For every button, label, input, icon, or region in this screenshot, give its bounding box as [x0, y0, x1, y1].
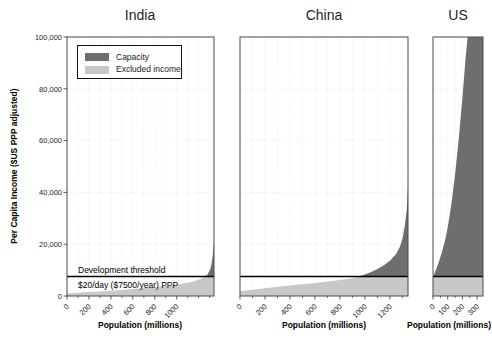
- threshold-sublabel: $20/day ($7500/year) PPP: [78, 281, 178, 291]
- panel-india: 02004006008001000: [62, 37, 214, 320]
- svg-text:0: 0: [428, 302, 437, 311]
- svg-text:80,000: 80,000: [39, 85, 62, 94]
- svg-text:800: 800: [144, 302, 159, 317]
- panel-title-us: US: [448, 7, 467, 23]
- threshold-label: Development threshold: [78, 266, 165, 276]
- svg-text:400: 400: [279, 302, 294, 317]
- svg-text:0: 0: [62, 302, 71, 311]
- svg-text:20,000: 20,000: [39, 240, 62, 249]
- excluded-income-area: [433, 277, 483, 296]
- svg-text:200: 200: [451, 302, 466, 317]
- svg-text:0: 0: [235, 302, 244, 311]
- income-distribution-figure: 0200400600800100002004006008001000120001…: [0, 0, 492, 351]
- svg-text:200: 200: [78, 302, 93, 317]
- svg-text:600: 600: [304, 302, 319, 317]
- y-axis-ticks: 020,00040,00060,00080,000100,000: [35, 33, 67, 301]
- svg-text:400: 400: [100, 302, 115, 317]
- capacity-area: [240, 186, 408, 277]
- svg-text:600: 600: [122, 302, 137, 317]
- x-axis-label-india: Population (millions): [98, 320, 182, 330]
- svg-text:1000: 1000: [351, 302, 369, 320]
- svg-text:40,000: 40,000: [39, 188, 62, 197]
- svg-text:100: 100: [436, 302, 451, 317]
- svg-text:100,000: 100,000: [35, 33, 62, 42]
- svg-text:60,000: 60,000: [39, 136, 62, 145]
- plot-border: [240, 37, 408, 296]
- chart-canvas: 0200400600800100002004006008001000120001…: [0, 0, 492, 351]
- legend-swatch-excluded-income: [85, 66, 109, 74]
- panel-title-china: China: [306, 7, 343, 23]
- svg-text:1000: 1000: [162, 302, 180, 320]
- panel-china: 020040060080010001200: [235, 37, 408, 320]
- legend-label-excluded-income: Excluded income: [116, 64, 181, 74]
- x-axis-label-china: Population (millions): [282, 320, 366, 330]
- svg-text:800: 800: [329, 302, 344, 317]
- panel-title-india: India: [125, 7, 155, 23]
- svg-text:300: 300: [466, 302, 481, 317]
- legend-label-capacity: Capacity: [116, 52, 149, 62]
- legend-swatch-capacity: [85, 53, 109, 61]
- x-axis-label-us: Population (millions): [407, 320, 491, 330]
- svg-text:200: 200: [254, 302, 269, 317]
- legend: Capacity Excluded income: [77, 45, 182, 79]
- svg-text:0: 0: [58, 292, 62, 301]
- y-axis-label: Per Capita Income ($US PPP adjusted): [9, 88, 19, 243]
- panel-us: 0100200300: [428, 37, 483, 317]
- svg-text:1200: 1200: [376, 302, 394, 320]
